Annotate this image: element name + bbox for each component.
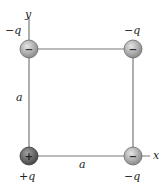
- charge-label-top-left: −q: [5, 24, 21, 37]
- square-charge-diagram: y x a a − −q − −q + +q − −q: [0, 0, 167, 184]
- minus-sign-icon: −: [129, 44, 137, 55]
- charge-top-right: −: [124, 40, 142, 58]
- minus-sign-icon: −: [129, 151, 137, 162]
- charge-label-bottom-left: +q: [19, 170, 35, 183]
- charge-bottom-right: −: [124, 147, 142, 165]
- bottom-side-length-label: a: [79, 158, 86, 171]
- x-axis-label: x: [153, 149, 160, 162]
- charge-top-left: −: [20, 40, 38, 58]
- charge-bottom-left: +: [20, 147, 38, 165]
- left-side-length-label: a: [16, 91, 23, 104]
- y-axis-label: y: [24, 8, 32, 21]
- plus-sign-icon: +: [25, 151, 33, 162]
- minus-sign-icon: −: [25, 44, 33, 55]
- charge-label-top-right: −q: [124, 24, 140, 37]
- charge-label-bottom-right: −q: [124, 170, 140, 183]
